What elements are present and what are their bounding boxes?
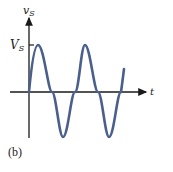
sine-curve	[29, 45, 124, 137]
figure-caption: (b)	[8, 145, 22, 160]
x-axis-label: t	[150, 86, 155, 97]
y-axis-label: vS	[23, 4, 35, 18]
amplitude-label: VS	[10, 38, 25, 53]
sine-wave-diagram: vS VS t	[0, 0, 173, 172]
